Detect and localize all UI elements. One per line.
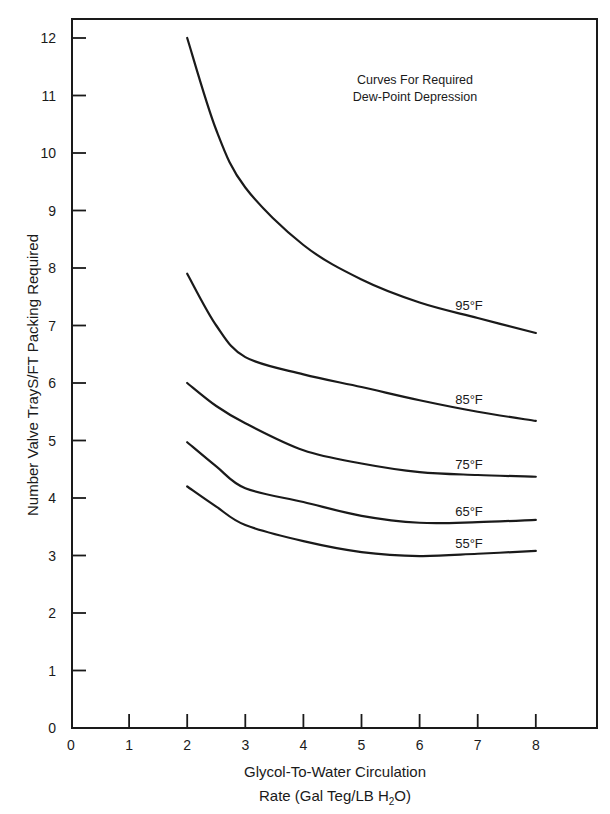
y-tick-label: 0 xyxy=(48,720,56,736)
x-tick-label: 2 xyxy=(183,737,191,753)
curve-label: 55°F xyxy=(455,536,483,551)
y-tick-label: 7 xyxy=(48,318,56,334)
x-axis-title: Glycol-To-Water Circulation Rate (Gal Te… xyxy=(244,763,426,807)
y-tick-label: 8 xyxy=(48,260,56,276)
y-axis-ticks: 0123456789101112 xyxy=(40,30,86,736)
curves: 95°F85°F75°F65°F55°F xyxy=(187,38,536,556)
curve-label: 85°F xyxy=(455,392,483,407)
x-tick-label: 0 xyxy=(67,737,75,753)
x-tick-label: 8 xyxy=(532,737,540,753)
annotation: Curves For Required Dew-Point Depression xyxy=(353,73,477,104)
y-tick-label: 11 xyxy=(41,88,56,104)
x-tick-label: 6 xyxy=(416,737,424,753)
y-tick-label: 4 xyxy=(48,490,56,506)
x-tick-label: 5 xyxy=(358,737,366,753)
x-axis-title-end: O) xyxy=(394,787,411,804)
y-tick-label: 6 xyxy=(48,375,56,391)
x-axis-title-line-1: Glycol-To-Water Circulation xyxy=(244,763,426,780)
x-tick-label: 1 xyxy=(125,737,133,753)
annotation-line-1: Curves For Required xyxy=(357,73,473,87)
curve-label: 65°F xyxy=(455,504,483,519)
y-tick-label: 10 xyxy=(40,145,56,161)
x-tick-label: 7 xyxy=(474,737,482,753)
dew-point-depression-chart: 0123456789101112 012345678 95°F85°F75°F6… xyxy=(0,0,610,814)
annotation-line-2: Dew-Point Depression xyxy=(353,90,477,104)
curve-75f xyxy=(187,383,536,477)
curve-label: 75°F xyxy=(455,457,483,472)
x-tick-label: 3 xyxy=(241,737,249,753)
curve-65f xyxy=(187,442,536,523)
curve-label: 95°F xyxy=(455,298,483,313)
y-tick-label: 9 xyxy=(48,203,56,219)
x-axis-ticks: 012345678 xyxy=(67,714,540,753)
y-tick-label: 3 xyxy=(48,548,56,564)
curve-85f xyxy=(187,274,536,421)
x-axis-title-line-2: Rate (Gal Teg/LB H2O) xyxy=(259,787,411,807)
plot-frame xyxy=(72,19,597,728)
x-tick-label: 4 xyxy=(300,737,308,753)
y-tick-label: 5 xyxy=(48,433,56,449)
x-axis-title-text: Rate (Gal Teg/LB H xyxy=(259,787,389,804)
y-tick-label: 2 xyxy=(48,605,56,621)
y-tick-label: 1 xyxy=(48,663,56,679)
y-tick-label: 12 xyxy=(40,30,56,46)
y-axis-title: Number Valve TrayS/FT Packing Required xyxy=(24,234,41,516)
